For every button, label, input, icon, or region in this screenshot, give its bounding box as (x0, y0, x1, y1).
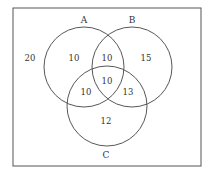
set-label-b: B (129, 15, 136, 25)
region-a-and-b: 10 (102, 53, 113, 63)
venn-diagram: A B C 20 10 10 15 10 10 13 12 (0, 0, 213, 174)
universe-frame (13, 8, 201, 166)
set-label-c: C (103, 150, 110, 160)
region-a-only: 10 (69, 53, 80, 63)
region-a-b-c: 10 (102, 76, 113, 86)
region-outside: 20 (25, 53, 36, 63)
region-b-only: 15 (141, 53, 152, 63)
region-b-and-c: 13 (123, 87, 134, 97)
set-label-a: A (80, 15, 88, 25)
region-a-and-c: 10 (81, 87, 92, 97)
region-c-only: 12 (101, 116, 112, 126)
